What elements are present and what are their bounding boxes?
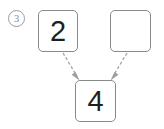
node-box-left: 2	[38, 10, 78, 52]
step-number-badge: 3	[8, 10, 25, 27]
node-box-bottom-label: 4	[87, 87, 103, 116]
edge-right-to-bottom-line	[114, 53, 128, 76]
edge-left-to-bottom	[63, 53, 80, 81]
step-number-label: 3	[14, 13, 20, 24]
diagram-canvas: 3 2 4	[0, 0, 164, 129]
node-box-left-label: 2	[50, 17, 66, 46]
edge-right-to-bottom	[111, 53, 128, 81]
node-box-right-empty	[110, 10, 151, 52]
node-box-bottom: 4	[75, 80, 116, 122]
edge-left-to-bottom-line	[63, 53, 77, 76]
